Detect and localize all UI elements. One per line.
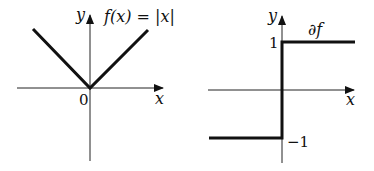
right-x-label: x xyxy=(346,90,355,109)
tick-label-neg1: −1 xyxy=(287,133,309,151)
left-x-label: x xyxy=(155,89,164,108)
tick-label-1: 1 xyxy=(269,34,279,52)
subgradient-plot: y ∂f 1 −1 x xyxy=(208,6,355,163)
right-y-label: y xyxy=(267,6,278,25)
right-func-label: ∂f xyxy=(308,20,325,39)
diagram-canvas: y f(x) = |x| 0 x y ∂f 1 −1 x xyxy=(0,0,374,171)
abs-value-plot: y f(x) = |x| 0 x xyxy=(17,5,175,161)
left-func-label: f(x) = |x| xyxy=(103,7,175,26)
left-origin-label: 0 xyxy=(79,91,89,109)
left-y-label: y xyxy=(75,5,86,24)
